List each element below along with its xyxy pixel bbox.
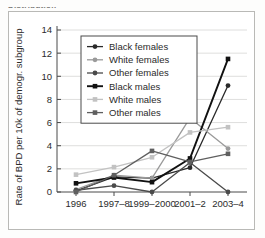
legend-label: Black females: [109, 41, 168, 52]
legend-marker-icon: [93, 71, 98, 76]
data-point: [112, 165, 117, 170]
data-point: [74, 190, 79, 195]
figure-container: Distribution 02468101214Rate of BPD per …: [0, 0, 265, 238]
data-point: [188, 130, 193, 135]
y-tick-label: 14: [41, 24, 52, 35]
line-chart: 02468101214Rate of BPD per 10k of demogr…: [9, 12, 254, 229]
data-point: [226, 125, 231, 130]
y-tick-label: 12: [41, 48, 52, 59]
x-tick-label: 1997–8: [98, 198, 130, 209]
y-tick-label: 0: [47, 186, 52, 197]
y-tick-label: 6: [47, 117, 52, 128]
data-point: [74, 172, 79, 177]
data-point: [226, 83, 231, 88]
y-tick-label: 10: [41, 71, 52, 82]
legend-label: Other males: [109, 107, 161, 118]
data-point: [74, 181, 79, 186]
x-tick-label: 1999–2000: [128, 198, 176, 209]
legend-marker-icon: [93, 44, 98, 49]
x-tick-label: 2001–2: [174, 198, 206, 209]
data-point: [112, 173, 117, 178]
data-point: [150, 149, 155, 154]
data-point: [226, 152, 231, 157]
data-point: [150, 190, 155, 195]
legend-label: Black males: [109, 81, 160, 92]
legend-marker-icon: [93, 84, 98, 89]
legend-label: Other females: [109, 67, 169, 78]
x-tick-label: 2003–4: [212, 198, 244, 209]
legend-marker-icon: [93, 57, 98, 62]
data-point: [226, 57, 231, 62]
legend-marker-icon: [93, 110, 98, 115]
data-point: [188, 165, 193, 170]
data-point: [150, 176, 155, 181]
data-point: [112, 183, 117, 188]
y-tick-label: 2: [47, 163, 52, 174]
y-tick-label: 8: [47, 94, 52, 105]
data-point: [188, 160, 193, 165]
x-tick-label: 1996: [65, 198, 86, 209]
data-point: [226, 190, 231, 195]
legend-label: White males: [109, 94, 162, 105]
data-point: [150, 155, 155, 160]
chart-frame: 02468101214Rate of BPD per 10k of demogr…: [8, 11, 255, 230]
clipped-caption-text: Distribution: [8, 0, 128, 11]
data-point: [150, 180, 155, 185]
y-axis-title: Rate of BPD per 10k of demogr. subgroup: [13, 29, 24, 206]
legend-label: White females: [109, 54, 169, 65]
legend-marker-icon: [93, 97, 98, 102]
data-point: [226, 146, 231, 151]
y-tick-label: 4: [47, 140, 52, 151]
